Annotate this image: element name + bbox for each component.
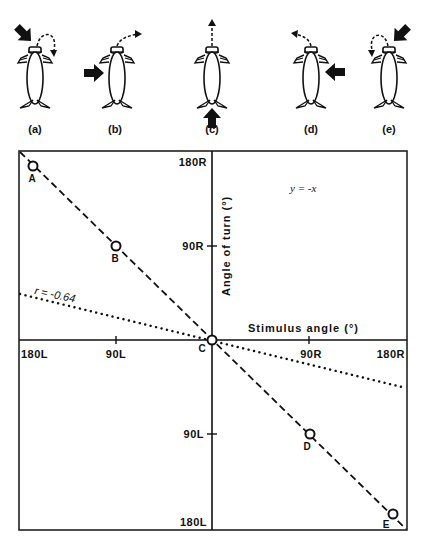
- y-axis-title: Angle of turn (°): [220, 196, 232, 296]
- insect-body-icon: [100, 47, 134, 108]
- panel-e: (e): [368, 21, 414, 135]
- annotation-y-equals-minus-x: y = -x: [289, 182, 316, 194]
- y-tick-label-180L: 180L: [180, 516, 207, 528]
- panel-label-b: (b): [108, 123, 122, 135]
- panel-c: (c): [195, 19, 229, 135]
- turn-arrowhead-icon: [368, 50, 375, 57]
- panel-d: (d): [291, 30, 345, 135]
- insect-body-icon: [372, 47, 406, 108]
- turn-arrowhead-icon: [50, 50, 57, 57]
- panel-label-e: (e): [382, 123, 396, 135]
- y-tick-label-90R: 90R: [182, 240, 204, 252]
- x-axis-title: Stimulus angle (°): [248, 322, 359, 334]
- panel-label-d: (d): [304, 123, 318, 135]
- stimulus-arrow-icon: [325, 63, 345, 81]
- x-tick-label-180L: 180L: [21, 348, 48, 360]
- panel-label-c: (c): [205, 123, 219, 135]
- data-point-A: A: [28, 162, 37, 185]
- data-point-C: C: [198, 336, 216, 355]
- turn-path-arrow-icon: [296, 34, 311, 46]
- stimulus-arrow-icon: [11, 21, 38, 48]
- data-point-B: B: [111, 242, 120, 265]
- point-label-A: A: [28, 173, 35, 184]
- insect-body-icon: [18, 47, 52, 108]
- x-tick-label-90L: 90L: [106, 348, 126, 360]
- insect-body-icon: [195, 47, 229, 108]
- point-label-B: B: [111, 253, 118, 264]
- panel-a: (a): [11, 21, 57, 135]
- data-point-E: E: [383, 510, 398, 531]
- annotation-r-value: r = -0.64: [34, 284, 77, 304]
- y-tick-label-90L: 90L: [184, 428, 204, 440]
- turn-arrowhead-icon: [135, 30, 142, 38]
- turn-arrowhead-icon: [291, 30, 298, 38]
- x-tick-label-180R: 180R: [377, 348, 405, 360]
- point-label-E: E: [383, 519, 390, 530]
- point-label-D: D: [303, 441, 310, 452]
- turn-arrowhead-icon: [208, 19, 216, 26]
- figure: (a) (b) (c) (d) (e): [0, 0, 425, 547]
- chart: 180L 90L 90R 180R 180R 90R 90L 180L Stim…: [19, 151, 407, 530]
- point-label-C: C: [198, 343, 205, 354]
- turn-path-arrow-icon: [117, 34, 138, 46]
- panel-b: (b): [84, 30, 142, 135]
- x-tick-label-90R: 90R: [300, 348, 322, 360]
- y-tick-label-180R: 180R: [179, 156, 207, 168]
- panel-label-a: (a): [28, 123, 42, 135]
- stimulus-arrow-icon: [84, 64, 104, 82]
- insect-body-icon: [294, 47, 328, 108]
- stimulus-arrow-icon: [388, 21, 415, 48]
- data-point-D: D: [303, 430, 314, 453]
